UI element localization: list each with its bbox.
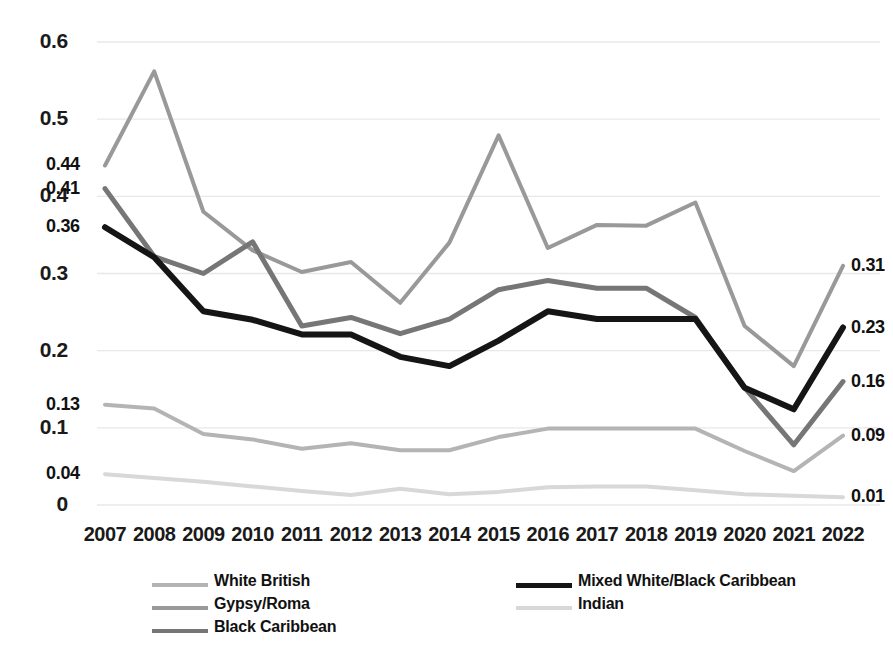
plot-area [0, 0, 893, 660]
end-label-3: 0.23 [851, 317, 885, 338]
y-tick-label: 0.5 [10, 106, 68, 130]
legend-swatch-icon [516, 583, 572, 588]
legend-swatch-icon [152, 583, 208, 587]
end-label-1: 0.31 [851, 255, 885, 276]
series-line-1 [105, 71, 843, 366]
legend-swatch-icon [516, 606, 572, 610]
end-label-4: 0.01 [851, 486, 885, 507]
end-label-2: 0.16 [851, 371, 885, 392]
legend-swatch-icon [152, 606, 208, 610]
y-tick-label: 0.6 [10, 29, 68, 53]
legend-item-label: Indian [578, 595, 624, 613]
series-line-4 [105, 474, 843, 497]
series-line-0 [105, 405, 843, 471]
series-lines [105, 71, 843, 497]
series-line-2 [105, 189, 843, 445]
end-label-0: 0.09 [851, 425, 885, 446]
start-label-4: 0.04 [46, 463, 80, 484]
legend-item-label: Black Caribbean [214, 618, 336, 636]
legend-swatch-icon [152, 629, 208, 633]
start-label-0: 0.13 [46, 394, 80, 415]
start-label-2: 0.41 [46, 178, 80, 199]
legend-item-label: Mixed White/Black Caribbean [578, 572, 796, 590]
y-tick-label: 0.1 [10, 415, 68, 439]
start-label-1: 0.44 [46, 154, 80, 175]
y-tick-label: 0.2 [10, 338, 68, 362]
legend-item-label: White British [214, 572, 310, 590]
series-line-3 [105, 227, 843, 409]
y-tick-label: 0.3 [10, 261, 68, 285]
y-tick-label: 0 [10, 492, 68, 516]
x-tick-label: 2022 [813, 523, 873, 546]
line-chart: 00.10.20.30.40.50.6 20072008200920102011… [0, 0, 893, 660]
start-label-3: 0.36 [46, 216, 80, 237]
legend-item-label: Gypsy/Roma [214, 595, 310, 613]
